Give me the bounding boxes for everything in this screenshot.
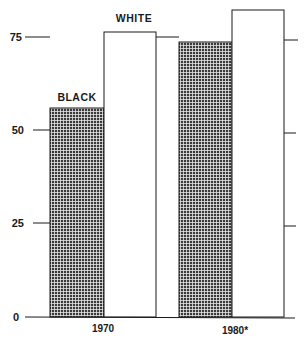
bar-black-1980	[179, 42, 232, 317]
tick-label-0: 0	[13, 311, 19, 323]
series-label-black: BLACK	[57, 91, 96, 103]
category-label-1970: 1970	[92, 323, 115, 334]
bar-group-1980	[179, 10, 284, 317]
bar-white-1980	[232, 10, 284, 317]
bar-group-1970	[50, 32, 156, 317]
tick-label-75: 75	[10, 31, 22, 43]
tick-label-25: 25	[12, 217, 24, 229]
tick-label-50: 50	[12, 124, 24, 136]
bar-chart: 75 50 25 0 BLACK WHITE 1970 1980*	[0, 0, 306, 343]
y-axis-left: 75 50 25 0	[10, 31, 50, 323]
category-label-1980: 1980*	[222, 325, 248, 336]
bar-black-1970	[50, 108, 104, 317]
bar-white-1970	[104, 32, 156, 317]
y-axis-right	[284, 40, 298, 226]
series-label-white: WHITE	[116, 12, 152, 24]
